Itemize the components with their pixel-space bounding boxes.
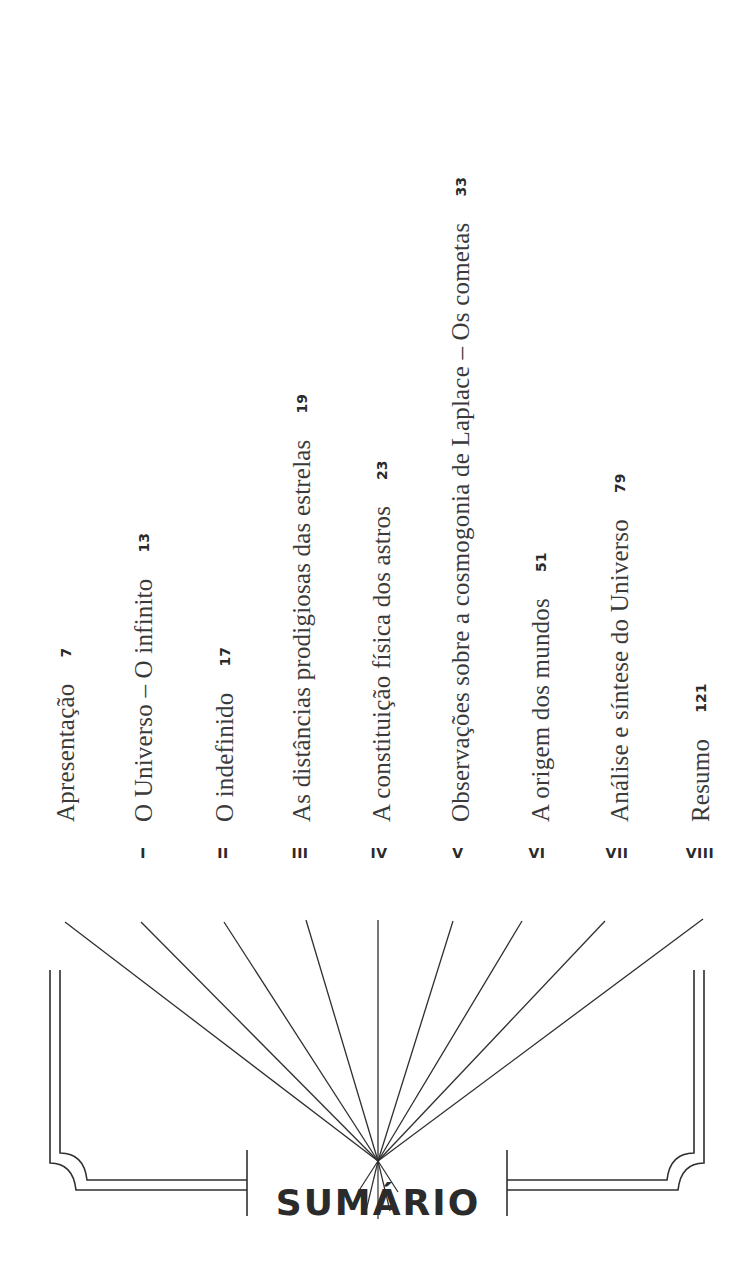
- chapter-numeral: VII: [606, 846, 629, 860]
- toc-entry-5[interactable]: Observações sobre a cosmogonia de Laplac…: [448, 177, 473, 822]
- entry-title: As distâncias prodigiosas das estrelas: [289, 439, 314, 822]
- entry-page-number: 17: [218, 647, 232, 666]
- entry-title: Apresentação: [53, 684, 78, 822]
- entry-page-number: 121: [694, 684, 708, 713]
- entry-title: Observações sobre a cosmogonia de Laplac…: [448, 223, 473, 822]
- entry-title: Análise e síntese do Universo: [607, 519, 632, 822]
- entry-page-number: 33: [454, 177, 468, 196]
- toc-entry-8[interactable]: Resumo 121: [688, 684, 713, 822]
- toc-entry-2[interactable]: O indefinido 17: [212, 647, 237, 822]
- toc-entry-4[interactable]: A constituição física dos astros 23: [369, 460, 394, 822]
- frame-left: [50, 970, 247, 1216]
- entry-title: A origem dos mundos: [528, 598, 553, 822]
- toc-entry-3[interactable]: As distâncias prodigiosas das estrelas 1…: [289, 394, 314, 822]
- chapter-numeral: IV: [370, 846, 387, 860]
- toc-entry-1[interactable]: O Universo – O infinito 13: [131, 533, 156, 822]
- entry-page-number: 13: [137, 533, 151, 552]
- entry-title: O Universo – O infinito: [131, 579, 156, 822]
- toc-entry-7[interactable]: Análise e síntese do Universo 79: [607, 474, 632, 822]
- toc-entry-0[interactable]: Apresentação 7: [53, 648, 78, 822]
- page-title: SUMÁRIO: [276, 1185, 481, 1221]
- chapter-numeral: I: [140, 846, 146, 860]
- fan-lines: [65, 919, 703, 1161]
- chapter-numeral: III: [291, 846, 308, 860]
- entry-title: A constituição física dos astros: [369, 506, 394, 822]
- entry-page-number: 7: [59, 648, 73, 658]
- entry-page-number: 79: [613, 474, 627, 493]
- entry-page-number: 23: [375, 460, 389, 479]
- chapter-numeral: VIII: [686, 846, 714, 860]
- entry-title: O indefinido: [212, 693, 237, 822]
- chapter-numeral: II: [217, 846, 228, 860]
- frame-right: [507, 970, 704, 1216]
- chapter-numeral: V: [452, 846, 463, 860]
- toc-entry-6[interactable]: A origem dos mundos 51: [528, 553, 553, 822]
- chapter-numeral: VI: [528, 846, 545, 860]
- entry-title: Resumo: [688, 739, 713, 822]
- entry-page-number: 51: [534, 553, 548, 572]
- entry-page-number: 19: [295, 394, 309, 413]
